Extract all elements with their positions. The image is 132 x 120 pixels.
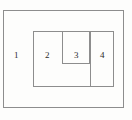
region-label-4: 4 [100,51,105,60]
region-label-2: 2 [45,51,50,60]
diagram-canvas: 1 2 3 4 [0,0,132,120]
region-label-1: 1 [14,51,19,60]
region-label-3: 3 [74,51,79,60]
